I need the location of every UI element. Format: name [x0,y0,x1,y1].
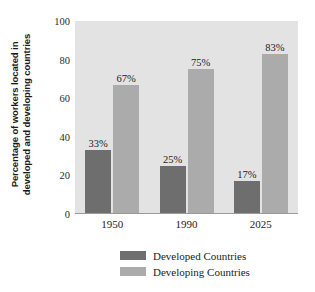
bar-group-2025: 17%83% [234,21,288,214]
bar-2025-developing[interactable]: 83% [262,54,288,214]
legend-swatch-icon-developed [120,251,146,260]
y-axis-tick-100: 100 [54,16,70,27]
bar-1990-developed[interactable]: 25% [160,166,186,214]
x-axis-tick-2025: 2025 [250,218,272,230]
legend-item-developed[interactable]: Developed Countries [120,249,250,262]
y-axis-tick-labels: 020406080100 [44,15,70,215]
bar-value-label-1990-developing: 75% [191,57,210,68]
bar-group-1950: 33%67% [85,21,139,214]
y-axis-tick-20: 20 [60,170,71,181]
bar-value-label-2025-developed: 17% [237,169,256,180]
x-axis-tick-1950: 1950 [101,218,123,230]
bar-1950-developing[interactable]: 67% [113,85,139,214]
bar-value-label-2025-developing: 83% [265,42,284,53]
x-axis-tick-labels: 195019902025 [75,218,298,234]
y-axis-title-line-2: developed and developing countries [21,34,34,195]
bar-value-label-1950-developing: 67% [117,73,136,84]
legend-label: Developing Countries [153,266,250,278]
bar-1950-developed[interactable]: 33% [85,150,111,214]
y-axis-tick-60: 60 [60,93,71,104]
y-axis-tick-80: 80 [60,54,71,65]
bar-2025-developed[interactable]: 17% [234,181,260,214]
bar-chart-figure: Percentage of workers located in develop… [0,0,315,292]
bar-value-label-1950-developed: 33% [89,138,108,149]
y-axis-title: Percentage of workers located in develop… [0,7,42,222]
bar-1990-developing[interactable]: 75% [188,69,214,214]
legend-swatch-icon-developing [120,267,146,276]
y-axis-title-line-1: Percentage of workers located in [9,42,22,188]
chart-legend: Developed CountriesDeveloping Countries [120,249,250,278]
x-axis-tick-1990: 1990 [176,218,198,230]
legend-item-developing[interactable]: Developing Countries [120,265,250,278]
bar-value-label-1990-developed: 25% [163,154,182,165]
y-axis-tick-40: 40 [60,131,71,142]
bar-group-1990: 25%75% [160,21,214,214]
legend-label: Developed Countries [153,250,246,262]
plot-area: 33%67%25%75%17%83% [75,21,298,214]
y-axis-tick-0: 0 [65,209,70,220]
